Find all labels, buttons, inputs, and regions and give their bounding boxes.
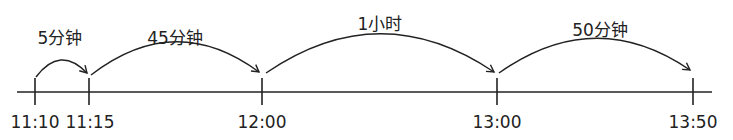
interval-label: 45分钟 [147, 24, 203, 49]
tick-label: 13:00 [473, 112, 522, 132]
tick-label: 13:50 [669, 112, 718, 132]
arc-1h [266, 34, 494, 73]
tick-label: 11:10 [11, 112, 60, 132]
arc-50min [499, 38, 690, 73]
tick-label: 12:00 [238, 112, 287, 132]
arc-5min [36, 60, 87, 77]
tick-label: 11:15 [66, 112, 115, 132]
interval-label: 5分钟 [38, 24, 83, 49]
interval-label: 1小时 [358, 10, 403, 35]
interval-label: 50分钟 [572, 16, 628, 41]
